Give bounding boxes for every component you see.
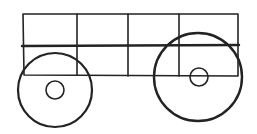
wagon-drawing	[0, 0, 257, 134]
figure-canvas: Wagon line drawing four-wheeled cart sid…	[0, 0, 257, 134]
wagon-rail	[22, 45, 239, 46]
